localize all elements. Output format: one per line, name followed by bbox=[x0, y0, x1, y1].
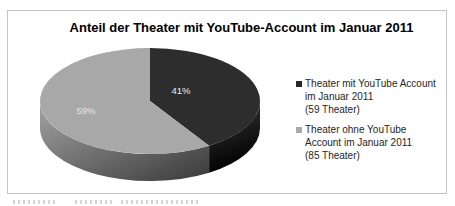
legend-swatch-gray-icon bbox=[296, 127, 302, 133]
legend-label-line: (85 Theater) bbox=[305, 149, 450, 162]
cropped-caption-artifact bbox=[121, 200, 201, 204]
legend-label-line: Theater mit YouTube Account bbox=[305, 77, 450, 90]
legend-label: Theater mit YouTube Account im Januar 20… bbox=[305, 77, 450, 116]
legend-label-line: im Januar 2011 bbox=[305, 90, 450, 103]
legend-label-line: (59 Theater) bbox=[305, 103, 450, 116]
chart-panel: Anteil der Theater mit YouTube-Account i… bbox=[0, 0, 455, 206]
cropped-caption-artifact bbox=[75, 200, 113, 204]
legend-label: Theater ohne YouTube Account im Januar 2… bbox=[305, 123, 450, 162]
legend-item-no-youtube: Theater ohne YouTube Account im Januar 2… bbox=[296, 123, 450, 162]
legend-item-youtube: Theater mit YouTube Account im Januar 20… bbox=[296, 77, 450, 116]
chart-legend: Theater mit YouTube Account im Januar 20… bbox=[296, 77, 450, 162]
legend-label-line: Theater ohne YouTube bbox=[305, 123, 450, 136]
cropped-caption-artifact bbox=[13, 200, 55, 204]
legend-label-line: Account im Januar 2011 bbox=[305, 136, 450, 149]
slice-percent-label-no-youtube: 59% bbox=[76, 105, 96, 116]
legend-swatch-dark-icon bbox=[296, 81, 302, 87]
slice-percent-label-youtube: 41% bbox=[171, 85, 191, 96]
